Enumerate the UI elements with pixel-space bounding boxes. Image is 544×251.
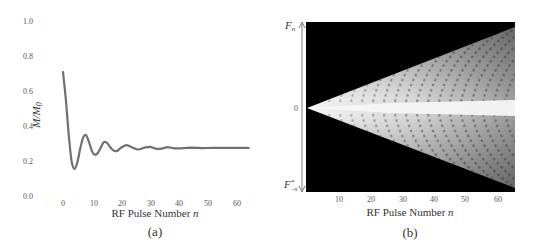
- x-tick-10: 10: [335, 195, 343, 204]
- heatmap-chart-b: Fn 0 F*−n 10 20 30 40 50 60 RF Pulse Num…: [272, 0, 544, 251]
- y-tick-0.8: 0.8: [23, 52, 33, 61]
- chart-panel-a: 1.0 0.8 0.6 0.4 0.2 0.0 M/M0 0 10 20 30 …: [0, 0, 272, 251]
- y-tick-1.0: 1.0: [23, 17, 33, 26]
- y-tick-0.0: 0.0: [23, 192, 33, 201]
- x-tick-50: 50: [204, 199, 212, 208]
- y-tick-0.2: 0.2: [23, 157, 33, 166]
- vertical-double-arrow: [299, 22, 305, 192]
- x-tick-10: 10: [90, 199, 98, 208]
- label-f-n: Fn: [284, 19, 296, 33]
- x-tick-60: 60: [233, 199, 241, 208]
- y-tick-0.6: 0.6: [23, 87, 33, 96]
- x-tick-60: 60: [494, 195, 502, 204]
- data-line-m-over-m0: [63, 72, 249, 169]
- panel-caption-a: (a): [148, 224, 162, 239]
- x-tick-40: 40: [430, 195, 438, 204]
- y-axis-title: M/M0: [30, 102, 44, 128]
- x-tick-50: 50: [461, 195, 469, 204]
- x-tick-20: 20: [367, 195, 375, 204]
- label-f-minus-n-conjugate: F*−n: [283, 178, 297, 192]
- chart-panel-b: Fn 0 F*−n 10 20 30 40 50 60 RF Pulse Num…: [272, 0, 544, 251]
- x-axis-title-b: RF Pulse Number n: [366, 206, 454, 218]
- x-tick-0: 0: [61, 199, 65, 208]
- label-zero: 0: [294, 104, 298, 113]
- x-axis-title: RF Pulse Number n: [111, 207, 199, 219]
- x-tick-30: 30: [399, 195, 407, 204]
- panel-caption-b: (b): [402, 225, 417, 240]
- line-chart-a: 1.0 0.8 0.6 0.4 0.2 0.0 M/M0 0 10 20 30 …: [0, 0, 272, 251]
- x-axis-ticks-b: 10 20 30 40 50 60: [335, 195, 502, 204]
